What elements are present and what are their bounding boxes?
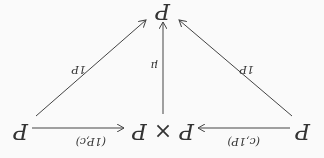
node-right: P	[13, 119, 28, 144]
label-c-1p: (c,1P)	[227, 135, 260, 148]
label-1p-c: (1P,c)	[76, 135, 106, 148]
commutative-diagram: P P × P P P (c,1P) (1P,c) 1P μ 1P	[0, 0, 324, 158]
node-left: P	[295, 119, 310, 144]
node-bottom: P	[155, 0, 170, 24]
node-product: P × P	[132, 119, 194, 144]
label-mu: μ	[151, 59, 158, 72]
label-right-diag: 1P	[72, 63, 86, 76]
label-left-diag: 1P	[240, 63, 254, 76]
